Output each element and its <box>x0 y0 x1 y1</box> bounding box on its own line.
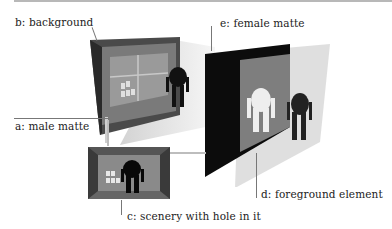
label-background: b: background <box>15 16 93 28</box>
label-scenery-with-hole: c: scenery with hole in it <box>127 210 261 222</box>
label-female-matte: e: female matte <box>220 17 305 29</box>
label-foreground-element: d: foreground element <box>261 188 383 200</box>
leader-e <box>211 26 212 51</box>
connector-male-matte-to-scenery <box>107 120 109 146</box>
leader-d <box>256 153 257 198</box>
matte-plates-illustration <box>200 42 345 187</box>
label-male-matte: a: male matte <box>15 120 89 132</box>
top-rule <box>14 0 392 2</box>
scenery-with-hole-illustration <box>86 145 172 201</box>
connector-scenery-to-matte <box>170 152 206 154</box>
background-scenery-illustration <box>80 35 220 145</box>
leader-c <box>121 200 122 215</box>
leader-a <box>14 118 109 119</box>
